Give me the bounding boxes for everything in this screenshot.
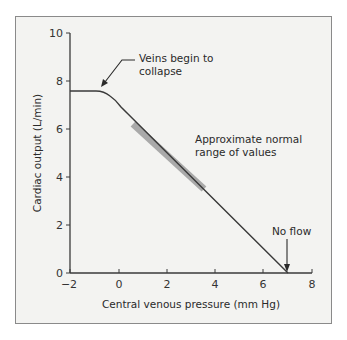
y-tick-label: 4: [56, 171, 63, 184]
x-tick-label: 2: [164, 278, 171, 291]
vascular-function-chart: 0 2 4 6 8 10 −2 0 2 4 6 8 Veins begin to…: [0, 0, 347, 340]
y-tick-label: 8: [56, 75, 63, 88]
x-tick-label: −2: [61, 278, 77, 291]
x-tick-label: 4: [212, 278, 219, 291]
x-axis-label: Central venous pressure (mm Hg): [102, 298, 280, 310]
annotation-normal-range-line1: Approximate normal: [195, 133, 302, 145]
x-tick-label: 8: [309, 278, 316, 291]
annotation-normal-range-line2: range of values: [195, 146, 276, 158]
x-tick-label: 6: [260, 278, 267, 291]
annotation-veins-collapse-line2: collapse: [139, 65, 182, 77]
annotation-no-flow: No flow: [272, 225, 312, 237]
y-tick-labels: 0 2 4 6 8 10: [49, 27, 63, 280]
x-tick-labels: −2 0 2 4 6 8: [61, 278, 316, 291]
collapse-arrow-line: [105, 60, 135, 82]
x-tick-label: 0: [116, 278, 123, 291]
y-tick-label: 6: [56, 123, 63, 136]
y-tick-label: 2: [56, 219, 63, 232]
y-tick-label: 10: [49, 27, 63, 40]
y-axis-label: Cardiac output (L/min): [31, 94, 43, 212]
vascular-function-curve: [70, 91, 288, 273]
annotation-veins-collapse-line1: Veins begin to: [139, 52, 213, 64]
